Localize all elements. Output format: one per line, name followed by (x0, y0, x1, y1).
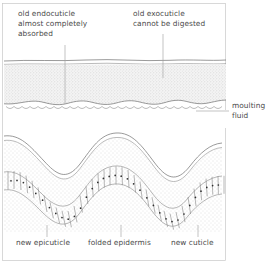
new-cuticle-band (4, 138, 222, 232)
label-bottom-row: new epicuticle folded epidermis new cuti… (16, 238, 214, 247)
moulting-fluid-zone (4, 110, 226, 128)
label-old-exocuticle: old exocuticle cannot be digested (133, 9, 205, 28)
folded-epidermis-text: folded epidermis (88, 238, 151, 247)
new-epicuticle-text: new epicuticle (16, 238, 70, 247)
old-epicuticle-line-inner (4, 63, 226, 64)
old-cuticle-group (4, 60, 226, 109)
old-epicuticle-line (4, 60, 226, 61)
new-cuticle-text: new cuticle (171, 238, 214, 247)
moulting-fluid-line-1: moulting (232, 101, 265, 110)
old-endocuticle-line-3: absorbed (18, 29, 53, 38)
old-exocuticle-line-2: cannot be digested (133, 19, 205, 28)
old-exocuticle-band (4, 64, 226, 104)
moulting-fluid-line-2: fluid (232, 111, 249, 120)
new-cuticle-group (4, 133, 222, 232)
label-moulting-fluid: moulting fluid (232, 101, 265, 120)
moulting-cuticle-diagram: old endocuticle almost completely absorb… (0, 0, 268, 268)
label-old-endocuticle: old endocuticle almost completely absorb… (18, 9, 88, 38)
old-endocuticle-line-1: old endocuticle (18, 9, 76, 18)
old-endocuticle-line-2: almost completely (18, 19, 88, 28)
old-exocuticle-line-1: old exocuticle (133, 9, 185, 18)
endocuticle-absorption-fringe (6, 107, 222, 109)
